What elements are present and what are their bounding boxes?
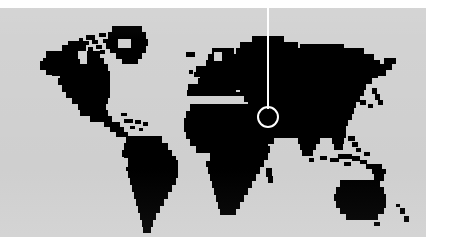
continent-north-america — [40, 26, 148, 137]
world-map-panel[interactable] — [0, 8, 426, 237]
marker-leader-line — [267, 8, 269, 109]
screenshot-root — [0, 0, 453, 251]
continent-australia — [334, 164, 409, 226]
continents-group — [40, 26, 409, 233]
world-map-landmass — [0, 8, 426, 237]
continent-south-america — [122, 136, 178, 233]
location-marker-ring[interactable] — [257, 106, 279, 128]
